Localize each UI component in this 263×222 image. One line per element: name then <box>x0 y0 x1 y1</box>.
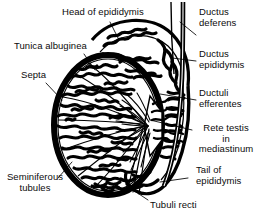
label-rete-testis-in-mediastinum: Rete testis in mediastinum <box>190 123 262 155</box>
label-ductuli-efferentes: Ductuli efferentes <box>199 88 242 109</box>
label-ductus-epididymis: Ductus epididymis <box>199 49 244 70</box>
label-seminiferous-tubules: Seminiferous tubules <box>2 172 68 193</box>
label-ductus-deferens: Ductus deferens <box>199 7 236 28</box>
label-tubuli-recti: Tubuli recti <box>150 200 197 211</box>
label-tunica-albuginea: Tunica albuginea <box>14 41 87 52</box>
label-septa: Septa <box>21 70 46 81</box>
label-tail-of-epididymis: Tail of epididymis <box>196 165 241 186</box>
anatomy-figure: Head of epididymis Tunica albuginea Sept… <box>0 0 263 222</box>
label-head-of-epididymis: Head of epididymis <box>62 7 144 18</box>
